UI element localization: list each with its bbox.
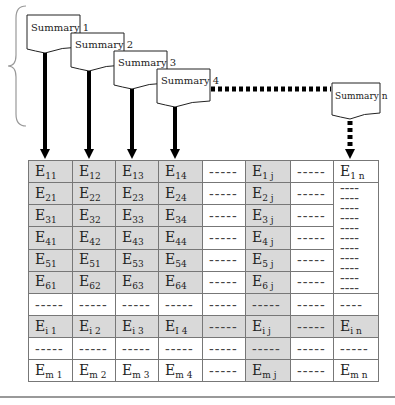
bottom-divider [0, 396, 395, 398]
ellipsis-cell: ----- [203, 316, 246, 338]
cell: E51 [29, 249, 73, 271]
cell: EI 4 [159, 316, 203, 338]
ellipsis-cell: ----- [334, 338, 379, 360]
cell: E42 [73, 227, 116, 249]
ellipsis-cell: ----- [203, 360, 246, 382]
cell: E43 [116, 227, 159, 249]
cell: E5 j [246, 249, 291, 271]
cell: E44 [159, 227, 203, 249]
matrix-row-3: E31 E32 E33 E34 ----- E3 j ----- [29, 205, 379, 227]
cell: E61 [29, 271, 73, 293]
ellipsis-cell: ----- [29, 338, 73, 360]
element-matrix: E11 E12 E13 E14 ----- E1 j ----- E1 n E2… [28, 160, 379, 382]
ellipsis-cell: ----- [116, 294, 159, 316]
cell: E54 [159, 249, 203, 271]
ellipsis-cell: ----- [246, 294, 291, 316]
ellipsis-cell: ----- [159, 338, 203, 360]
ellipsis-cell: ----- [291, 316, 334, 338]
cell: E53 [116, 249, 159, 271]
cell: E41 [29, 227, 73, 249]
curly-brace [8, 6, 26, 126]
cell: E13 [116, 161, 159, 183]
matrix-row-4: E41 E42 E43 E44 ----- E4 j ----- [29, 227, 379, 249]
ellipsis-cell: ----- [203, 271, 246, 293]
cell: Em n [334, 360, 379, 382]
ellipsis-cell: ----- [203, 249, 246, 271]
cell: E32 [73, 205, 116, 227]
cell: Em 2 [73, 360, 116, 382]
summary-1-label: Summary 1 [31, 22, 89, 34]
ellipsis-cell: ----- [291, 271, 334, 293]
cell: E4 j [246, 227, 291, 249]
cell: E11 [29, 161, 73, 183]
matrix-row-6: E61 E62 E63 E64 ----- E6 j ----- [29, 271, 379, 293]
cell: E51 [73, 249, 116, 271]
cell: E63 [116, 271, 159, 293]
ellipsis-cell: ----- [291, 294, 334, 316]
ellipsis-cell: ----- [203, 183, 246, 205]
cell: E33 [116, 205, 159, 227]
cell: E31 [29, 205, 73, 227]
cell: E62 [73, 271, 116, 293]
cell: Ei j [246, 316, 291, 338]
cell: E14 [159, 161, 203, 183]
cell: Em 3 [116, 360, 159, 382]
ellipsis-cell: ----- [291, 183, 334, 205]
cell: Ei 2 [73, 316, 116, 338]
cell: Ei 1 [29, 316, 73, 338]
ellipsis-cell: ----- [116, 338, 159, 360]
matrix-row-2: E21 E22 E23 E24 ----- E2 j ----- -------… [29, 183, 379, 205]
summary-4-label: Summary 4 [161, 75, 219, 87]
cell: Em 4 [159, 360, 203, 382]
ellipsis-cell: ----- [291, 249, 334, 271]
ellipsis-cell: ----- [203, 205, 246, 227]
ellipsis-cell: ----- [246, 338, 291, 360]
summary-n-label: Summary n [335, 90, 387, 102]
ellipsis-cell: ----- [29, 294, 73, 316]
ellipsis-cell: ----- [159, 294, 203, 316]
cell: E64 [159, 271, 203, 293]
column-n-ellipsis: ----------------------------------------… [334, 183, 379, 294]
cell: Em 1 [29, 360, 73, 382]
cell: E21 [29, 183, 73, 205]
ellipsis-cell: ----- [291, 360, 334, 382]
cell: E1 j [246, 161, 291, 183]
ellipsis-cell: ----- [203, 161, 246, 183]
cell: Ei 3 [116, 316, 159, 338]
ellipsis-cell: ----- [291, 227, 334, 249]
ellipsis-cell: ----- [73, 338, 116, 360]
matrix-row-ellipsis: ----- ----- ----- ----- ----- ----- ----… [29, 294, 379, 316]
matrix-row-1: E11 E12 E13 E14 ----- E1 j ----- E1 n [29, 161, 379, 183]
ellipsis-cell: ----- [203, 338, 246, 360]
cell: E22 [73, 183, 116, 205]
ellipsis-cell: ----- [203, 294, 246, 316]
cell: E34 [159, 205, 203, 227]
matrix-row-5: E51 E51 E53 E54 ----- E5 j ----- [29, 249, 379, 271]
cell: E3 j [246, 205, 291, 227]
cell: Em j [246, 360, 291, 382]
ellipsis-cell: ---- [334, 294, 379, 316]
cell: E23 [116, 183, 159, 205]
matrix-row-m: Em 1 Em 2 Em 3 Em 4 ----- Em j ----- Em … [29, 360, 379, 382]
cell: E2 j [246, 183, 291, 205]
ellipsis-cell: ----- [291, 338, 334, 360]
matrix-row-ellipsis-2: ----- ----- ----- ----- ----- ----- ----… [29, 338, 379, 360]
ellipsis-cell: ----- [203, 227, 246, 249]
cell: Ei n [334, 316, 379, 338]
summary-2-label: Summary 2 [75, 39, 133, 51]
cell: E12 [73, 161, 116, 183]
ellipsis-cell: ----- [291, 161, 334, 183]
cell: E6 j [246, 271, 291, 293]
ellipsis-cell: ----- [73, 294, 116, 316]
cell: E24 [159, 183, 203, 205]
summary-3-label: Summary 3 [118, 57, 176, 69]
matrix-row-i: Ei 1 Ei 2 Ei 3 EI 4 ----- Ei j ----- Ei … [29, 316, 379, 338]
ellipsis-cell: ----- [291, 205, 334, 227]
